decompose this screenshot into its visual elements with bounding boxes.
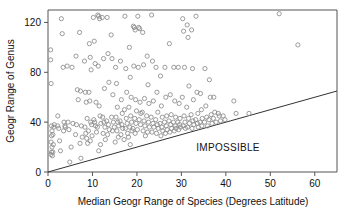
scatter-point	[143, 124, 147, 128]
scatter-point	[159, 104, 163, 108]
scatter-point	[118, 59, 122, 63]
scatter-points-group	[49, 12, 300, 164]
scatter-point	[67, 128, 71, 132]
scatter-point	[138, 123, 142, 127]
scatter-point	[102, 86, 106, 90]
scatter-point	[134, 109, 138, 113]
scatter-point	[122, 138, 126, 142]
scatter-point	[69, 145, 73, 149]
scatter-point	[73, 133, 77, 137]
scatter-point	[214, 120, 218, 124]
scatter-point	[202, 120, 206, 124]
scatter-point	[133, 98, 137, 102]
scatter-point	[199, 108, 203, 112]
plot-canvas: 0102030405060 04080120 IMPOSSIBLE Median…	[0, 0, 351, 213]
scatter-point	[129, 120, 133, 124]
scatter-point	[190, 66, 194, 70]
scatter-point	[169, 113, 173, 117]
scatter-point	[119, 133, 123, 137]
scatter-point	[59, 17, 63, 21]
scatter-point	[177, 101, 181, 105]
scatter-point	[163, 131, 167, 135]
scatter-point	[163, 65, 167, 69]
x-tick-label: 50	[265, 178, 277, 189]
x-axis-title: Median Geogr Range of Species (Degrees L…	[78, 196, 309, 207]
scatter-point	[129, 95, 133, 99]
scatter-point	[114, 81, 118, 85]
scatter-point	[85, 116, 89, 120]
y-axis-tick-labels: 04080120	[24, 17, 41, 178]
scatter-point	[185, 105, 189, 109]
scatter-point	[150, 13, 154, 17]
scatter-point	[189, 113, 193, 117]
scatter-point	[196, 111, 200, 115]
scatter-point	[66, 120, 70, 124]
scatter-point	[164, 95, 168, 99]
scatter-point	[123, 14, 127, 18]
scatter-point	[86, 129, 90, 133]
scatter-point	[232, 99, 236, 103]
y-tick-label: 40	[30, 117, 42, 128]
scatter-point	[182, 29, 186, 33]
scatter-point	[80, 135, 84, 139]
x-axis-tick-marks	[48, 172, 315, 176]
scatter-point	[97, 104, 101, 108]
scatter-point	[49, 48, 53, 52]
scatter-point	[210, 121, 214, 125]
scatter-point	[70, 65, 74, 69]
scatter-point	[168, 93, 172, 97]
scatter-point	[57, 139, 61, 143]
scatter-point	[115, 105, 119, 109]
scatter-point	[211, 116, 215, 120]
scatter-point	[146, 83, 150, 87]
scatter-point	[204, 104, 208, 108]
scatter-point	[128, 142, 132, 146]
scatter-point	[149, 115, 153, 119]
scatter-point	[203, 66, 207, 70]
scatter-point	[74, 54, 78, 58]
scatter-point	[49, 81, 53, 85]
scatter-point	[191, 98, 195, 102]
scatter-point	[147, 125, 151, 129]
x-tick-label: 60	[309, 178, 321, 189]
scatter-point	[137, 118, 141, 122]
scatter-point	[88, 55, 92, 59]
scatter-point	[85, 141, 89, 145]
scatter-point	[173, 99, 177, 103]
scatter-point	[223, 118, 227, 122]
scatter-point	[207, 78, 211, 82]
scatter-point	[65, 64, 69, 68]
scatter-point	[94, 100, 98, 104]
scatter-point	[158, 74, 162, 78]
scatter-point	[68, 160, 72, 164]
scatter-point	[172, 65, 176, 69]
scatter-point	[97, 149, 101, 153]
scatter-point	[187, 84, 191, 88]
scatter-point	[110, 57, 114, 61]
scatter-point	[125, 90, 129, 94]
scatter-point	[181, 17, 185, 21]
scatter-point	[92, 39, 96, 43]
scatter-point	[194, 14, 198, 18]
scatter-point	[123, 126, 127, 130]
scatter-point	[134, 121, 138, 125]
scatter-point	[190, 126, 194, 130]
scatter-point	[185, 23, 189, 27]
scatter-point	[135, 128, 139, 132]
scatter-point	[145, 114, 149, 118]
scatter-point	[61, 65, 65, 69]
scatter-point	[109, 33, 113, 37]
scatter-point	[146, 120, 150, 124]
scatter-point	[174, 115, 178, 119]
scatter-point	[132, 25, 136, 29]
scatter-point	[79, 156, 83, 160]
scatter-point	[114, 115, 118, 119]
plot-frame	[48, 10, 337, 172]
scatter-point	[127, 105, 131, 109]
scatter-point	[125, 121, 129, 125]
scatter-point	[87, 42, 91, 46]
x-axis-tick-labels: 0102030405060	[45, 178, 321, 189]
scatter-point	[160, 115, 164, 119]
scatter-point	[101, 57, 105, 61]
scatter-point	[128, 75, 132, 79]
